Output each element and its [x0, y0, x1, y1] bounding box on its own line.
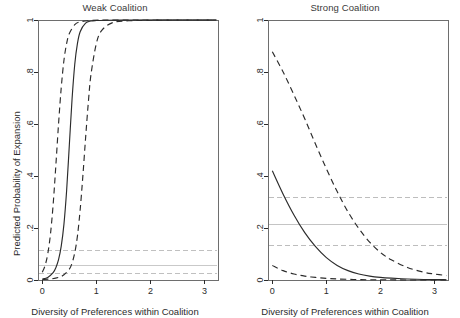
plot-frame	[268, 20, 448, 280]
y-tick-label: .6	[25, 120, 35, 128]
y-tick-label: .4	[25, 172, 35, 180]
y-tick-label: .2	[255, 224, 265, 232]
figure-canvas: Weak Coalition 0.2.4.6.810123 Diversity …	[0, 0, 460, 318]
x-tick-label: 2	[148, 286, 153, 296]
x-tick-label: 3	[432, 286, 437, 296]
x-tick-label: 1	[324, 286, 329, 296]
series-curve	[272, 52, 446, 276]
panel-weak-coalition: Weak Coalition 0.2.4.6.810123 Diversity …	[0, 0, 230, 318]
series-curve	[42, 20, 216, 279]
x-tick-label: 0	[40, 286, 45, 296]
x-axis-label-strong: Diversity of Preferences within Coalitio…	[230, 306, 460, 317]
plot-area-strong: 0.2.4.6.810123	[230, 0, 460, 318]
y-tick-label: .8	[25, 68, 35, 76]
plot-area-weak: 0.2.4.6.810123	[0, 0, 230, 318]
y-tick-label: 1	[255, 17, 265, 22]
series-curve	[42, 20, 216, 272]
y-tick-label: .4	[255, 172, 265, 180]
y-tick-label: 0	[255, 277, 265, 282]
x-tick-label: 2	[378, 286, 383, 296]
x-tick-label: 1	[94, 286, 99, 296]
y-tick-label: .6	[255, 120, 265, 128]
series-curve	[272, 265, 446, 280]
y-tick-label: .8	[255, 68, 265, 76]
panel-strong-coalition: Strong Coalition 0.2.4.6.810123 Diversit…	[230, 0, 460, 318]
y-tick-label: .2	[25, 224, 35, 232]
x-axis-label-weak: Diversity of Preferences within Coalitio…	[0, 306, 230, 317]
y-tick-label: 1	[25, 17, 35, 22]
series-curve	[42, 20, 216, 279]
y-axis-label-weak: Predicted Probability of Expansion	[11, 111, 22, 256]
x-tick-label: 3	[202, 286, 207, 296]
x-tick-label: 0	[270, 286, 275, 296]
y-tick-label: 0	[25, 277, 35, 282]
plot-frame	[38, 20, 218, 280]
